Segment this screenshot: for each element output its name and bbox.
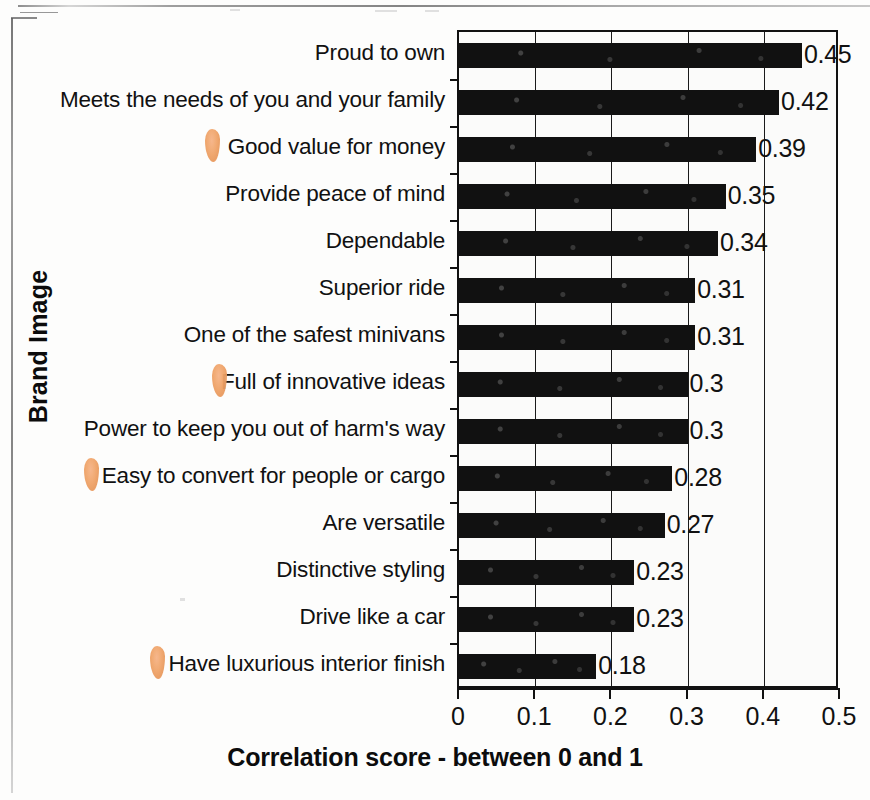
category-label: Easy to convert for people or cargo bbox=[0, 463, 445, 489]
scan-speck bbox=[230, 9, 240, 11]
x-axis-tick-label: 0.5 bbox=[822, 702, 857, 730]
bar bbox=[459, 654, 596, 679]
bar-value-label: 0.45 bbox=[804, 41, 851, 67]
category-label: Dependable bbox=[0, 228, 445, 254]
bar bbox=[459, 231, 718, 256]
bar-row bbox=[459, 267, 836, 314]
x-axis-tick bbox=[457, 688, 459, 699]
bar-value-label: 0.23 bbox=[636, 605, 683, 631]
bar bbox=[459, 184, 726, 209]
bar-value-label: 0.28 bbox=[674, 464, 721, 490]
category-label: One of the safest minivans bbox=[0, 322, 445, 348]
y-axis-tick bbox=[450, 455, 459, 457]
bar bbox=[459, 560, 634, 585]
bar-value-label: 0.27 bbox=[667, 511, 714, 537]
y-axis-tick bbox=[450, 79, 459, 81]
y-axis-tick bbox=[450, 220, 459, 222]
bar-row bbox=[459, 79, 836, 126]
bar bbox=[459, 325, 695, 350]
category-label: Proud to own bbox=[0, 40, 445, 66]
bar-value-label: 0.31 bbox=[697, 323, 744, 349]
scan-speck bbox=[375, 10, 397, 12]
bar-row bbox=[459, 220, 836, 267]
bar-row bbox=[459, 502, 836, 549]
category-label: Drive like a car bbox=[0, 604, 445, 630]
x-axis-line bbox=[457, 687, 838, 690]
bar-row bbox=[459, 32, 836, 79]
bar-row bbox=[459, 361, 836, 408]
bar-value-label: 0.42 bbox=[781, 88, 828, 114]
scan-page-edge-top-secondary bbox=[20, 12, 58, 13]
bar bbox=[459, 419, 688, 444]
scan-speck bbox=[425, 10, 439, 12]
x-axis-tick bbox=[609, 688, 611, 699]
x-axis-tick bbox=[533, 688, 535, 699]
bar-row bbox=[459, 173, 836, 220]
scan-speck bbox=[180, 598, 185, 601]
y-axis-tick bbox=[450, 596, 459, 598]
bar-row bbox=[459, 408, 836, 455]
x-axis-title: Correlation score - between 0 and 1 bbox=[0, 743, 870, 772]
category-label: Have luxurious interior finish bbox=[0, 651, 445, 677]
y-axis-tick bbox=[450, 267, 459, 269]
y-axis-tick bbox=[450, 408, 459, 410]
y-axis-tick bbox=[450, 361, 459, 363]
bar bbox=[459, 90, 779, 115]
bar bbox=[459, 43, 802, 68]
x-axis-tick-label: 0.3 bbox=[669, 702, 704, 730]
bar bbox=[459, 137, 756, 162]
bar-value-label: 0.31 bbox=[697, 276, 744, 302]
x-axis-tick bbox=[762, 688, 764, 699]
bar-value-label: 0.18 bbox=[598, 652, 645, 678]
x-axis-tick-label: 0.1 bbox=[517, 702, 552, 730]
bar bbox=[459, 372, 688, 397]
x-axis-tick-label: 0.4 bbox=[745, 702, 780, 730]
bar bbox=[459, 278, 695, 303]
x-axis-tick-label: 0 bbox=[451, 702, 465, 730]
bar-value-label: 0.35 bbox=[728, 182, 775, 208]
y-axis-tick bbox=[450, 502, 459, 504]
category-label: Meets the needs of you and your family bbox=[0, 87, 445, 113]
bar bbox=[459, 466, 672, 491]
bar-value-label: 0.3 bbox=[690, 370, 724, 396]
category-label: Good value for money bbox=[0, 134, 445, 160]
x-axis-tick bbox=[838, 688, 840, 699]
y-axis-tick bbox=[450, 126, 459, 128]
bar-value-label: 0.34 bbox=[720, 229, 767, 255]
bar bbox=[459, 607, 634, 632]
plot-area bbox=[457, 30, 838, 688]
x-axis-tick bbox=[686, 688, 688, 699]
bar-row bbox=[459, 314, 836, 361]
scan-page-edge-top bbox=[18, 5, 870, 7]
y-axis-tick bbox=[450, 314, 459, 316]
category-label: Are versatile bbox=[0, 510, 445, 536]
y-axis-tick bbox=[450, 549, 459, 551]
x-axis-tick-label: 0.2 bbox=[593, 702, 628, 730]
bar-row bbox=[459, 643, 836, 690]
bar bbox=[459, 513, 665, 538]
category-label: Superior ride bbox=[0, 275, 445, 301]
scan-page-corner bbox=[11, 17, 37, 19]
bar-value-label: 0.23 bbox=[636, 558, 683, 584]
y-axis-tick bbox=[450, 643, 459, 645]
y-axis-tick bbox=[450, 173, 459, 175]
bar-row bbox=[459, 455, 836, 502]
category-label: Power to keep you out of harm's way bbox=[0, 416, 445, 442]
bar-value-label: 0.39 bbox=[758, 135, 805, 161]
category-label: Provide peace of mind bbox=[0, 181, 445, 207]
chart-page: Brand Image Proud to ownMeets the needs … bbox=[0, 0, 870, 800]
bar-value-label: 0.3 bbox=[690, 417, 724, 443]
category-label: Distinctive styling bbox=[0, 557, 445, 583]
